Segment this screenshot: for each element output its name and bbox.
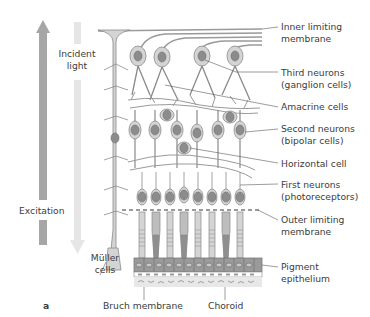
horizontal-cell bbox=[177, 142, 191, 154]
inner-limiting-membrane-label: Inner limiting membrane bbox=[281, 21, 342, 44]
outer-limiting-membrane-label: Outer limiting membrane bbox=[281, 214, 344, 237]
photoreceptor-segments bbox=[139, 212, 243, 258]
choroid-label: Choroid bbox=[208, 300, 243, 312]
ganglion-cells bbox=[130, 46, 250, 100]
bruch-membrane bbox=[134, 272, 262, 277]
excitation-label: Excitation bbox=[19, 205, 65, 217]
first-neurons-label: First neurons (photoreceptors) bbox=[281, 179, 358, 202]
amacrine-cells-label: Amacrine cells bbox=[281, 101, 348, 113]
bruch-membrane-label: Bruch membrane bbox=[103, 300, 183, 312]
photoreceptor-nuclei bbox=[137, 172, 245, 205]
horizontal-cell-label: Horizontal cell bbox=[281, 158, 347, 170]
muller-cells-label: Müller cells bbox=[90, 252, 120, 275]
amacrine-cells bbox=[160, 109, 237, 123]
third-neurons-label: Third neurons (ganglion cells) bbox=[281, 67, 351, 90]
second-neurons-label: Second neurons (bipolar cells) bbox=[281, 123, 355, 146]
pigment-epithelium-label: Pigment epithelium bbox=[281, 261, 330, 284]
muller-cell bbox=[98, 30, 130, 270]
choroid bbox=[134, 277, 262, 287]
incident-light-label: Incident light bbox=[55, 48, 99, 71]
outer-plexiform-layer bbox=[128, 155, 255, 178]
pigment-epithelium bbox=[134, 258, 262, 272]
panel-label: a bbox=[43, 300, 49, 312]
